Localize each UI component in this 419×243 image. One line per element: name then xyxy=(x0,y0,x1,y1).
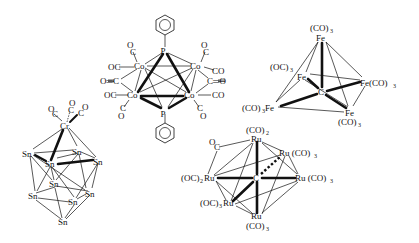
sn-label: Sn xyxy=(72,147,82,157)
crsn9-cluster: O C O C O C Cr Sn Sn Sn Sn Sn Sn Sn Sn S… xyxy=(22,98,103,227)
ligand-oc: OC xyxy=(108,62,121,72)
sn-label: Sn xyxy=(85,189,95,199)
fe-front-co-label: (CO) xyxy=(242,103,261,113)
subscript: 3 xyxy=(219,203,222,209)
sn-label: Sn xyxy=(28,191,38,201)
ru-lower-left-label: Ru xyxy=(223,198,234,208)
co-tl-label: Co xyxy=(134,61,145,71)
fe5c-cluster: (CO) 3 Fe (OC) 3 Fe Fe(CO) 3 C (CO) 3 Fe… xyxy=(242,23,396,128)
fe-front-label: Fe xyxy=(265,103,274,113)
phenyl-top-ring xyxy=(156,15,174,35)
fe-top-label: Fe xyxy=(316,33,325,43)
ru-upper-right-label: Ru (CO) xyxy=(279,148,310,158)
sn-label: Sn xyxy=(58,217,68,227)
fe-bottom-co-label: (CO) xyxy=(338,117,357,127)
ligand-c: C xyxy=(203,47,209,57)
co4p2-cluster: P P Co Co Co Co O C OC O═C OC C O O C CO… xyxy=(100,15,226,143)
sn-label: Sn xyxy=(68,197,78,207)
ligand-c: C xyxy=(78,108,84,118)
ru-right-label: Ru (CO) xyxy=(295,173,326,183)
sn-label: Sn xyxy=(45,159,55,169)
ligand-oc: OC xyxy=(104,90,117,100)
ru-left-oc-label: (OC) xyxy=(181,173,200,183)
sn-label: Sn xyxy=(22,149,32,159)
ru-bottom-co-label: (CO) xyxy=(246,221,265,231)
carbide-c-label: C xyxy=(253,173,259,183)
ligand-c: C xyxy=(214,142,220,152)
phenyl-bottom-ring xyxy=(156,123,174,143)
ligand-o: O xyxy=(200,111,207,121)
p-bottom-label: P xyxy=(161,109,166,119)
sn-label: Sn xyxy=(49,179,59,189)
ligand-bridge-co: C═O xyxy=(207,76,226,86)
fe-back-label: Fe xyxy=(297,72,306,82)
ru-left-label: Ru xyxy=(204,173,215,183)
ru-top-label: Ru xyxy=(251,134,262,144)
ligand-co: CO xyxy=(212,66,225,76)
subscript: 3 xyxy=(330,28,333,34)
cluster-diagram: P P Co Co Co Co O C OC O═C OC C O O C CO… xyxy=(0,0,419,243)
cr-label: Cr xyxy=(60,121,69,131)
co-tr-label: Co xyxy=(190,61,201,71)
co-bl-label: Co xyxy=(127,90,138,100)
ru-bottom-label: Ru xyxy=(251,211,262,221)
ligand-co: CO xyxy=(212,90,225,100)
subscript: 3 xyxy=(358,122,361,128)
ligand-c: C xyxy=(130,47,136,57)
subscript: 2 xyxy=(266,130,269,136)
subscript: 3 xyxy=(290,67,293,73)
fe-right-label: Fe(CO) xyxy=(360,78,388,88)
subscript: 3 xyxy=(266,226,269,232)
subscript: 2 xyxy=(200,178,203,184)
fe-back-oc-label: (OC) xyxy=(270,62,289,72)
ru6c-cluster: (CO) 2 Ru O C Ru (CO) 3 (OC) 2 Ru C Ru (… xyxy=(181,125,333,232)
carbide-c-label: C xyxy=(318,87,324,97)
ligand-o: O xyxy=(118,111,125,121)
sn-label: Sn xyxy=(93,157,103,167)
ligand-bridge-co: O═C xyxy=(100,76,119,86)
fe-top-co-label: (CO) xyxy=(310,23,329,33)
ru-lower-left-oc-label: (OC) xyxy=(200,198,219,208)
subscript: 3 xyxy=(314,153,317,159)
subscript: 3 xyxy=(330,178,333,184)
co-br-label: Co xyxy=(184,90,195,100)
p-top-label: P xyxy=(161,46,166,56)
ligand-c: C xyxy=(68,105,74,115)
ligand-c: C xyxy=(52,109,58,119)
subscript: 3 xyxy=(393,83,396,89)
